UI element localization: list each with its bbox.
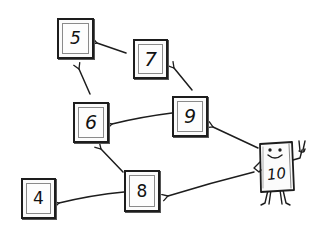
character-node-10-label: 10 (266, 166, 287, 183)
node-4-inner: 4 (26, 183, 51, 214)
arrow-10-to-8 (168, 172, 254, 196)
node-8: 8 (124, 170, 160, 212)
node-9: 9 (172, 96, 208, 137)
arrow-8-to-6 (101, 149, 123, 172)
node-8-inner: 8 (129, 175, 155, 207)
arrow-7-to-5 (97, 43, 126, 53)
node-7: 7 (133, 39, 168, 79)
arrow-9-to-7 (174, 68, 192, 90)
node-6-label: 6 (85, 113, 97, 132)
character-right-eye-icon (279, 149, 281, 151)
node-5-label: 5 (70, 30, 81, 47)
node-6: 6 (73, 102, 109, 143)
node-7-inner: 7 (138, 44, 163, 74)
node-9-inner: 9 (177, 101, 203, 132)
node-8-label: 8 (137, 183, 148, 200)
character-left-eye-icon (269, 149, 271, 151)
arrow-6-to-5 (79, 69, 90, 94)
node-9-label: 9 (184, 107, 196, 126)
diagram-canvas: 5 7 6 9 8 4 (0, 0, 328, 235)
node-4-label: 4 (33, 190, 44, 207)
node-6-inner: 6 (78, 107, 104, 138)
node-7-label: 7 (144, 49, 157, 69)
character-right-leg-icon (280, 190, 290, 205)
node-4: 4 (21, 178, 56, 219)
arrow-8-to-4 (59, 192, 124, 203)
node-5-inner: 5 (62, 23, 89, 54)
node-5: 5 (57, 18, 94, 59)
arrow-9-to-6 (112, 113, 172, 124)
